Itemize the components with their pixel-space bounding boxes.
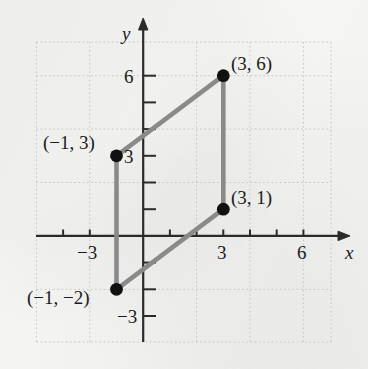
y-tick-label-6: 6 (124, 67, 134, 86)
y-axis-ticks (143, 76, 156, 316)
y-tick-label-minus3: −3 (117, 307, 137, 326)
vertex-point-3-1 (217, 203, 230, 216)
x-axis-arrowhead (338, 231, 350, 240)
x-tick-label-3: 3 (217, 243, 227, 262)
x-tick-label-minus3: −3 (77, 243, 97, 262)
vertex-point-minus1-m2 (110, 283, 123, 296)
point-label-3-6: (3, 6) (231, 54, 272, 73)
point-label-minus1-3: (−1, 3) (43, 133, 95, 152)
vertex-points (110, 69, 230, 295)
y-axis-label: y (122, 24, 130, 43)
vertex-point-minus1-3 (110, 149, 123, 162)
x-axis-label: x (345, 243, 353, 262)
figure-page: y x −3 3 6 6 3 −3 (−1, 3) (3, 6) (3, 1) … (0, 0, 368, 369)
point-label-minus1-minus2: (−1, −2) (27, 288, 90, 307)
y-axis-arrowhead (139, 18, 148, 30)
point-label-3-1: (3, 1) (231, 188, 272, 207)
vertex-point-3-6 (217, 69, 230, 82)
coordinate-plane-graphic (0, 0, 368, 369)
x-tick-label-6: 6 (297, 243, 307, 262)
y-tick-label-3: 3 (124, 147, 134, 166)
parallelogram-shape (117, 76, 224, 290)
